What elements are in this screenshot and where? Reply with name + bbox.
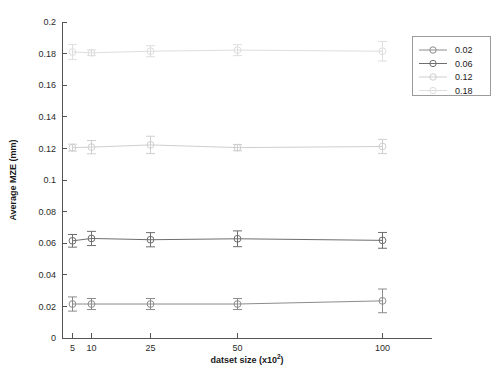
data-point [378,289,387,313]
y-tick-label: 0.18 [38,49,56,59]
series-line [73,238,383,240]
data-point [146,136,155,153]
y-tick-label: 0.08 [38,207,56,217]
y-tick-label: 0.14 [38,112,56,122]
data-point [233,231,242,247]
legend-label: 0.06 [455,59,473,69]
legend-label: 0.18 [455,86,473,96]
series-line [73,50,383,53]
data-point [87,141,96,154]
data-point [87,49,96,56]
y-tick-label: 0.02 [38,302,56,312]
data-point [233,45,242,56]
data-point [233,144,242,151]
series-0.06 [68,231,387,248]
x-tick-label: 5 [70,343,75,353]
data-point [233,299,242,310]
x-tick-group: 5102550100 [70,333,390,353]
series-0.18 [68,41,387,61]
data-point [68,144,77,151]
x-axis-title: datset size (x102) [210,353,283,365]
y-axis-title: Average MZE (mm) [8,139,18,220]
data-point [87,231,96,245]
series-0.02 [68,289,387,313]
data-point [87,299,96,310]
y-tick-label: 0.04 [38,270,56,280]
series-0.12 [68,136,387,154]
chart-canvas: 00.020.040.060.080.10.120.140.160.180.2 … [0,0,496,384]
y-tick-group: 00.020.040.060.080.10.120.140.160.180.2 [38,17,67,343]
legend[interactable]: 0.020.060.120.18 [412,36,490,96]
y-tick-label: 0.2 [43,17,56,27]
data-point [68,235,77,248]
y-tick-label: 0.06 [38,238,56,248]
x-tick-label: 25 [145,343,155,353]
data-point [378,232,387,248]
legend-label: 0.02 [455,45,473,55]
series-layer [68,41,387,312]
series-line [73,145,383,148]
legend-box [412,36,490,95]
data-point [378,139,387,153]
data-point [146,46,155,57]
y-tick-label: 0 [51,333,56,343]
data-point [378,41,387,61]
series-line [73,301,383,304]
x-tick-label: 100 [375,343,390,353]
data-point [146,299,155,310]
x-tick-label: 50 [232,343,242,353]
data-point [68,297,77,311]
y-tick-label: 0.16 [38,80,56,90]
data-point [146,233,155,247]
legend-label: 0.12 [455,72,473,82]
y-tick-label: 0.12 [38,144,56,154]
y-tick-label: 0.1 [43,175,56,185]
chart-figure: 00.020.040.060.080.10.120.140.160.180.2 … [0,0,496,384]
axes-group [62,22,432,338]
x-tick-label: 10 [86,343,96,353]
data-point [68,44,77,59]
